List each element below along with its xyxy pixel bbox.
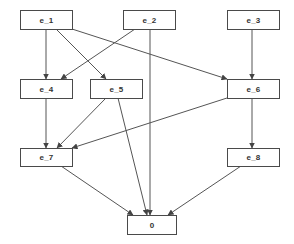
node-e8: e_8 [227, 148, 280, 167]
node-e5: e_5 [90, 79, 143, 99]
node-e4: e_4 [20, 79, 73, 99]
edge-e8-0 [168, 166, 241, 215]
edges-layer [0, 0, 294, 244]
directed-graph-diagram: e_1 e_2 e_3 e_4 e_5 e_6 e_7 e_8 0 [0, 0, 294, 244]
node-e7: e_7 [20, 148, 73, 167]
node-e1: e_1 [20, 10, 73, 30]
edge-e7-0 [61, 166, 133, 215]
edge-e5-0 [118, 98, 147, 215]
node-0: 0 [127, 215, 177, 235]
node-e6: e_6 [227, 79, 280, 99]
node-e2: e_2 [123, 10, 176, 30]
edge-e5-e7 [57, 98, 106, 148]
node-e3: e_3 [227, 10, 280, 30]
